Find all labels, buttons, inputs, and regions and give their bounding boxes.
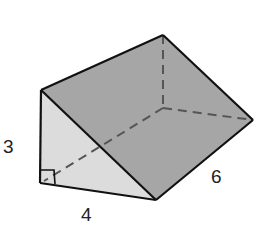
prism-svg — [0, 0, 265, 229]
height-label: 3 — [3, 137, 14, 156]
base-label: 4 — [81, 205, 92, 224]
prism-diagram: 3 4 6 — [0, 0, 265, 229]
length-label: 6 — [211, 167, 222, 186]
